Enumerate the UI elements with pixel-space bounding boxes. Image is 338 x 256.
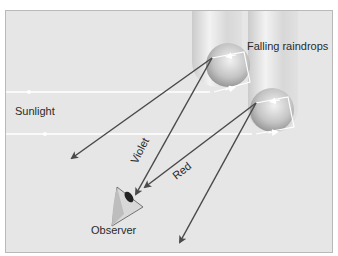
ray-red — [145, 103, 256, 187]
observer-eye-icon — [112, 187, 143, 226]
ray-drop2-violet — [180, 103, 256, 242]
rainbow-diagram — [0, 0, 338, 256]
observer-label: Observer — [91, 224, 136, 236]
sunlight-label: Sunlight — [15, 105, 55, 117]
falling-raindrops-label: Falling raindrops — [247, 40, 328, 52]
